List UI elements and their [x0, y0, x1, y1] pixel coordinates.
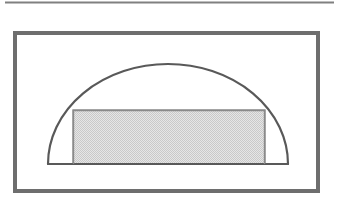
- inscribed-rectangle: [73, 110, 265, 164]
- figure-canvas: [0, 0, 339, 202]
- geometry-figure-svg: [0, 0, 339, 202]
